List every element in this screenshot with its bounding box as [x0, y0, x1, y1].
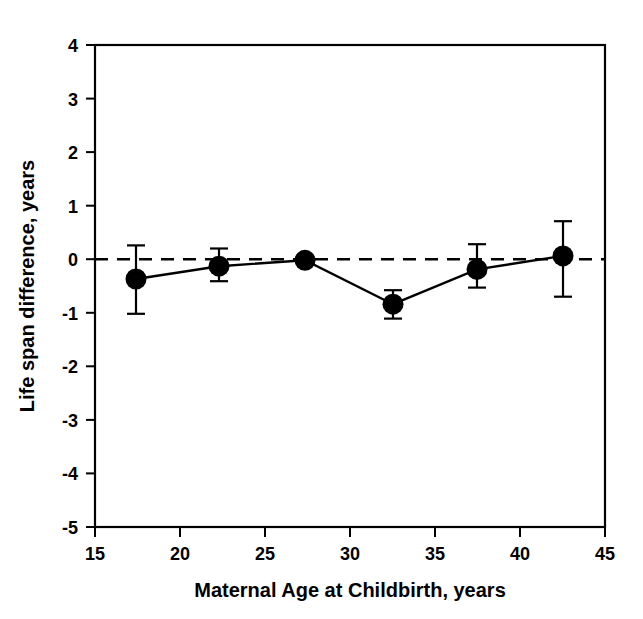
y-tick-label-0: 0 — [68, 250, 78, 270]
data-point-marker-1 — [126, 269, 147, 290]
x-tick-label-35: 35 — [425, 544, 445, 564]
plot-frame — [95, 45, 605, 527]
data-point-marker-5 — [467, 259, 488, 280]
series-connecting-line — [136, 256, 563, 304]
x-tick-label-45: 45 — [595, 544, 615, 564]
y-tick-label-neg1: -1 — [62, 304, 78, 324]
x-tick-label-40: 40 — [510, 544, 530, 564]
x-tick-label-20: 20 — [170, 544, 190, 564]
y-tick-label-neg2: -2 — [62, 357, 78, 377]
x-tick-label-15: 15 — [85, 544, 105, 564]
x-tick-label-30: 30 — [340, 544, 360, 564]
y-tick-label-3: 3 — [68, 90, 78, 110]
y-tick-label-neg4: -4 — [62, 464, 78, 484]
y-tick-label-4: 4 — [68, 36, 78, 56]
x-axis-tick-labels: 15 20 25 30 35 40 45 — [85, 544, 615, 564]
figure-container: 4 3 2 1 0 -1 -2 -3 -4 -5 15 20 25 30 — [0, 0, 643, 619]
y-tick-label-2: 2 — [68, 143, 78, 163]
data-point-marker-3 — [295, 250, 316, 271]
data-point-marker-4 — [383, 294, 404, 315]
y-tick-label-neg3: -3 — [62, 411, 78, 431]
x-tick-label-25: 25 — [255, 544, 275, 564]
y-tick-label-1: 1 — [68, 197, 78, 217]
data-point-marker-6 — [553, 245, 574, 266]
y-axis-ticks — [86, 45, 95, 527]
plot-border — [95, 45, 605, 527]
data-point-marker-2 — [209, 256, 230, 277]
life-span-difference-chart: 4 3 2 1 0 -1 -2 -3 -4 -5 15 20 25 30 — [0, 0, 643, 619]
y-axis-title: Life span difference, years — [16, 160, 38, 412]
x-axis-ticks — [95, 527, 605, 537]
x-axis-title: Maternal Age at Childbirth, years — [194, 579, 506, 601]
data-series-life-span-difference — [126, 221, 574, 318]
y-axis-tick-labels: 4 3 2 1 0 -1 -2 -3 -4 -5 — [62, 36, 78, 538]
data-point-markers — [126, 245, 574, 314]
y-tick-label-neg5: -5 — [62, 518, 78, 538]
